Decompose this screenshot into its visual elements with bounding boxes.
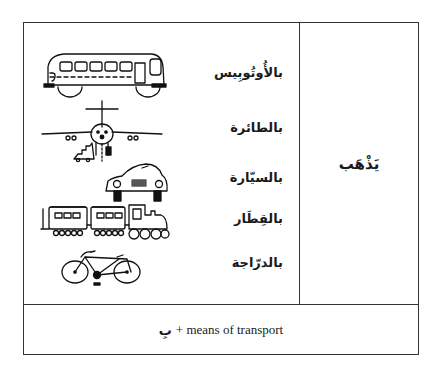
- airplane-icon: [40, 99, 165, 167]
- bus-icon: [40, 51, 170, 103]
- word-bicycle: بالدرّاجة: [193, 255, 283, 270]
- train-icon: [41, 203, 173, 245]
- footer-cell: بِ + means of transport: [24, 305, 418, 355]
- verb-cell: يَذْهَب: [300, 23, 418, 304]
- word-train: بالقِطَار: [193, 211, 283, 226]
- preposition-ba: بِ: [159, 323, 172, 338]
- grammar-table: بالأُوتُوبِيس بالطائرة بالسيّارة بالقِطَ…: [23, 22, 419, 355]
- verb-text: يَذْهَب: [339, 155, 380, 173]
- footer-text: + means of transport: [176, 322, 283, 338]
- word-airplane: بالطائرة: [193, 120, 283, 135]
- car-icon: [104, 161, 170, 207]
- word-bus: بالأُوتُوبِيس: [193, 65, 283, 80]
- bicycle-icon: [61, 247, 143, 293]
- word-car: بالسيّارة: [193, 170, 283, 185]
